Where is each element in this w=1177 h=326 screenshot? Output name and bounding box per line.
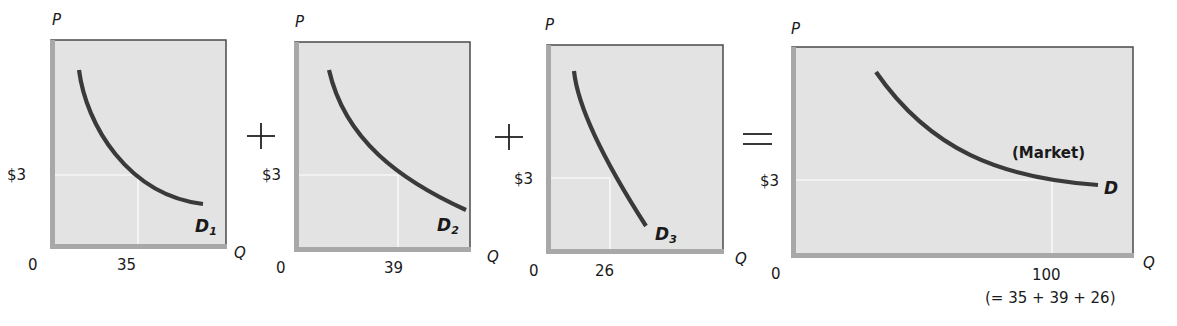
market-price-tick: $3 bbox=[760, 174, 779, 189]
panel-2-p-axis-label: P bbox=[295, 15, 304, 30]
panel-1-y-axis bbox=[50, 40, 55, 249]
panel-2-q-axis-label: Q bbox=[487, 250, 499, 265]
market-qty-note: (= 35 + 39 + 26) bbox=[985, 291, 1116, 306]
panel-3-y-axis bbox=[546, 45, 551, 254]
panel-3-p-axis-label: P bbox=[545, 18, 554, 33]
market-p-axis-label: P bbox=[791, 22, 800, 37]
panel-3-qty-tick: 26 bbox=[595, 264, 614, 279]
panel-1-x-axis bbox=[50, 244, 227, 249]
panel-market-x-axis bbox=[791, 253, 1134, 258]
panel-1-price-tick: $3 bbox=[7, 168, 26, 183]
panel-2-curve-label: D2 bbox=[437, 217, 459, 236]
panel-2-origin: 0 bbox=[276, 261, 286, 276]
panel-1-p-axis-label: P bbox=[52, 13, 61, 28]
panel-2-qty-tick: 39 bbox=[384, 261, 403, 276]
panel-2-y-axis bbox=[294, 42, 299, 252]
panel-2-x-axis bbox=[294, 247, 471, 252]
panel-3-x-axis bbox=[546, 249, 724, 254]
panel-1-qty-tick: 35 bbox=[117, 258, 136, 273]
panel-1-curve-label: D1 bbox=[195, 218, 217, 237]
market-curve-title: (Market) bbox=[1012, 146, 1085, 161]
panel-1-origin: 0 bbox=[28, 258, 38, 273]
panel-3-origin: 0 bbox=[529, 264, 539, 279]
panel-3-price-tick: $3 bbox=[514, 172, 533, 187]
market-q-axis-label: Q bbox=[1143, 256, 1155, 271]
demand-panels-canvas bbox=[0, 0, 1177, 326]
panel-2-price-tick: $3 bbox=[262, 168, 281, 183]
panel-3-q-axis-label: Q bbox=[735, 252, 747, 267]
market-origin: 0 bbox=[771, 267, 781, 282]
market-curve-label: D bbox=[1104, 180, 1118, 197]
panel-1-q-axis-label: Q bbox=[234, 246, 246, 261]
panel-market-y-axis bbox=[791, 47, 796, 258]
market-qty-tick: 100 bbox=[1032, 268, 1061, 283]
panel-3-curve-label: D3 bbox=[655, 226, 677, 245]
